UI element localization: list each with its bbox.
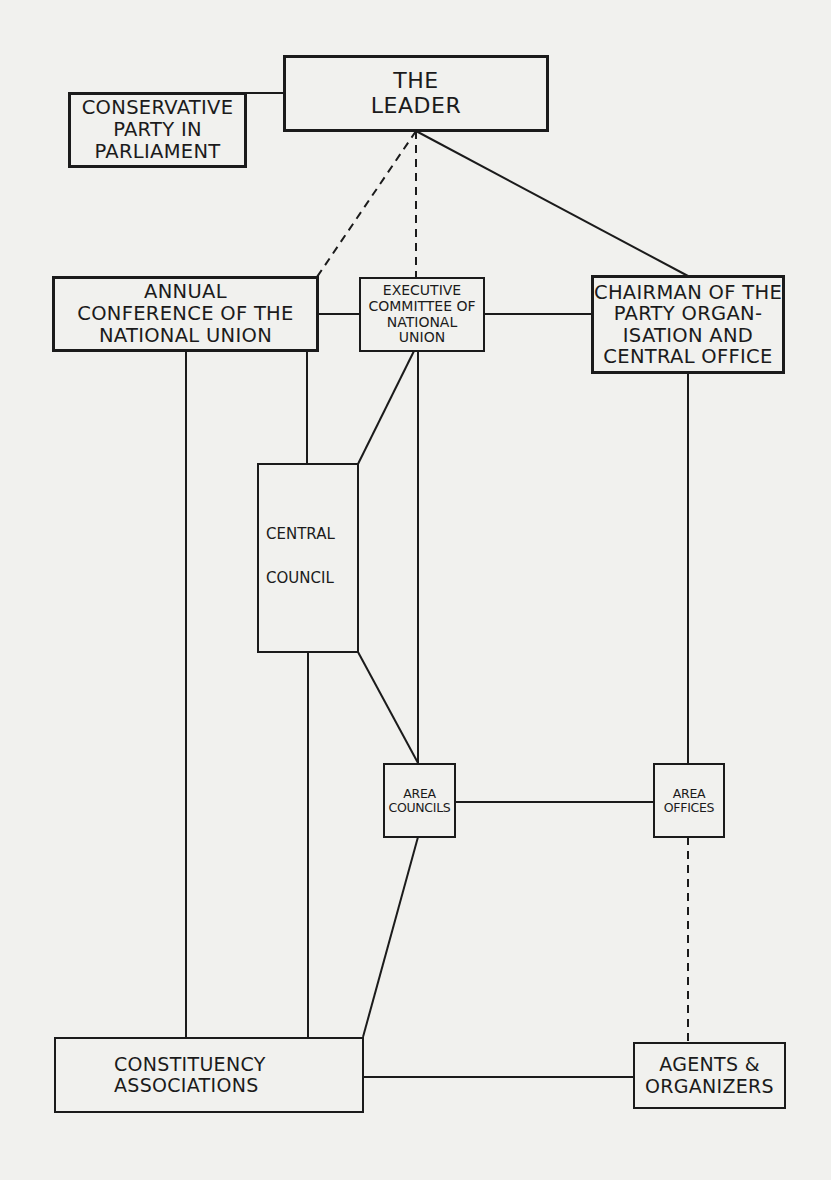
- node-constituency-line: ASSOCIATIONS: [114, 1075, 259, 1096]
- node-central-council-line: CENTRAL: [266, 513, 335, 557]
- node-leader: THE LEADER: [283, 55, 549, 132]
- node-conference-line: CONFERENCE OF THE: [77, 303, 293, 325]
- node-executive-committee: EXECUTIVE COMMITTEE OF NATIONAL UNION: [359, 277, 485, 352]
- node-agents-line: AGENTS &: [659, 1054, 760, 1075]
- node-executive-line: NATIONAL: [387, 315, 458, 331]
- node-area-councils-line: AREA: [403, 787, 436, 801]
- edge-executive-central: [358, 351, 414, 464]
- node-central-council-line: COUNCIL: [266, 557, 334, 601]
- node-leader-line: LEADER: [371, 94, 461, 119]
- node-central-council: CENTRAL COUNCIL: [257, 463, 359, 653]
- node-annual-conference: ANNUAL CONFERENCE OF THE NATIONAL UNION: [52, 276, 319, 352]
- node-executive-line: COMMITTEE OF: [368, 299, 475, 315]
- connector-lines: [0, 0, 831, 1180]
- node-chairman-line: ISATION AND: [623, 325, 753, 346]
- node-parliament-line: CONSERVATIVE: [82, 97, 234, 119]
- edge-central-area-councils: [358, 652, 418, 763]
- node-constituency-associations: CONSTITUENCY ASSOCIATIONS: [54, 1037, 364, 1113]
- node-area-offices: AREA OFFICES: [653, 763, 725, 838]
- node-leader-line: THE: [393, 69, 438, 94]
- node-chairman-line: CHAIRMAN OF THE: [594, 282, 782, 303]
- node-chairman-party-organisation: CHAIRMAN OF THE PARTY ORGAN- ISATION AND…: [591, 275, 785, 374]
- node-conference-line: ANNUAL: [144, 281, 227, 303]
- node-area-councils: AREA COUNCILS: [383, 763, 456, 838]
- node-executive-line: EXECUTIVE: [383, 283, 461, 299]
- node-conference-line: NATIONAL UNION: [99, 325, 272, 347]
- edge-area-councils-constituency: [363, 837, 418, 1037]
- node-area-offices-line: AREA: [673, 787, 706, 801]
- node-chairman-line: CENTRAL OFFICE: [603, 346, 772, 367]
- node-conservative-party-in-parliament: CONSERVATIVE PARTY IN PARLIAMENT: [68, 92, 247, 168]
- edge-leader-conference: [317, 131, 416, 277]
- node-area-offices-line: OFFICES: [664, 801, 714, 815]
- node-executive-line: UNION: [399, 330, 445, 346]
- node-chairman-line: PARTY ORGAN-: [614, 303, 763, 324]
- node-parliament-line: PARTY IN: [113, 119, 202, 141]
- node-area-councils-line: COUNCILS: [389, 801, 451, 815]
- node-agents-organizers: AGENTS & ORGANIZERS: [633, 1042, 786, 1109]
- node-constituency-line: CONSTITUENCY: [114, 1054, 266, 1075]
- node-agents-line: ORGANIZERS: [645, 1076, 774, 1097]
- node-parliament-line: PARLIAMENT: [95, 141, 221, 163]
- edge-leader-chairman: [416, 131, 688, 276]
